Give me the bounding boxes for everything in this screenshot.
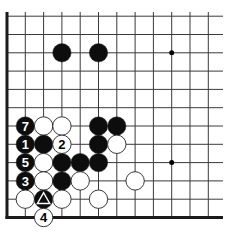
- black-stone: [53, 44, 71, 62]
- white-stone: [126, 172, 144, 190]
- white-stone: [53, 117, 71, 135]
- move-number-label: 1: [22, 137, 29, 152]
- white-stone: [34, 153, 52, 171]
- move-number-label: 5: [22, 155, 29, 170]
- white-stone: [34, 172, 52, 190]
- black-stone: [71, 153, 89, 171]
- move-number-label: 3: [22, 174, 29, 189]
- move-number-label: 4: [40, 210, 48, 225]
- white-stone: [34, 117, 52, 135]
- go-board-svg: 712534: [0, 0, 225, 233]
- white-stone: [108, 135, 126, 153]
- go-board-diagram: 712534: [0, 0, 225, 233]
- white-stone: [71, 172, 89, 190]
- black-stone: [108, 117, 126, 135]
- black-stone: [89, 153, 107, 171]
- move-number-label: 7: [22, 119, 29, 134]
- black-stone: [89, 44, 107, 62]
- star-point: [169, 160, 174, 165]
- black-stone: [53, 153, 71, 171]
- white-stone: [16, 190, 34, 208]
- white-stone: [53, 190, 71, 208]
- black-stone: [34, 135, 52, 153]
- star-point: [169, 50, 174, 55]
- black-stone: [53, 172, 71, 190]
- black-stone: [89, 117, 107, 135]
- move-number-label: 2: [58, 137, 65, 152]
- white-stone: [89, 190, 107, 208]
- black-stone: [89, 135, 107, 153]
